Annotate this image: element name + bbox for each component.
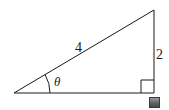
right-angle-marker [141, 80, 154, 93]
triangle-figure: 4 2 θ [0, 0, 169, 110]
angle-arc [45, 75, 50, 94]
hypotenuse-label: 4 [75, 40, 82, 55]
angle-label: θ [54, 74, 61, 89]
triangle-svg: 4 2 θ [0, 0, 169, 110]
hypotenuse-line [14, 10, 154, 93]
opposite-side-label: 2 [156, 47, 163, 62]
gray-square-icon [149, 97, 160, 108]
